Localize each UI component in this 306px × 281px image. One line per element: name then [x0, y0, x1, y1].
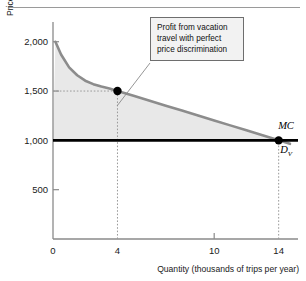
point-at-q4	[113, 87, 121, 95]
annotation-callout-box: Profit from vacation travel with perfect…	[150, 17, 244, 61]
y-tick-label-500: 500	[32, 184, 48, 195]
x-axis-tick-labels: 041014	[50, 245, 284, 256]
x-axis-title: Quantity (thousands of trips per year)	[157, 264, 299, 274]
demand-curve-label-subscript: V	[288, 150, 293, 158]
x-tick-label-4: 4	[115, 245, 120, 256]
y-tick-label-1,000: 1,000	[24, 135, 48, 146]
x-tick-label-0: 0	[50, 245, 55, 256]
y-tick-label-1,500: 1,500	[24, 85, 48, 96]
x-tick-label-14: 14	[273, 245, 284, 256]
chart-figure: 5001,0001,5002,000 041014 MC D V Price (…	[0, 0, 306, 281]
y-axis-title: Price (dollars per trip)	[5, 0, 15, 16]
y-tick-label-2,000: 2,000	[24, 36, 48, 47]
annotation-callout-text: Profit from vacation travel with perfect…	[157, 22, 238, 55]
demand-curve-label: D	[279, 144, 288, 155]
mc-curve-label: MC	[277, 120, 295, 131]
x-tick-label-10: 10	[209, 245, 220, 256]
y-axis-tick-labels: 5001,0001,5002,000	[24, 36, 48, 195]
